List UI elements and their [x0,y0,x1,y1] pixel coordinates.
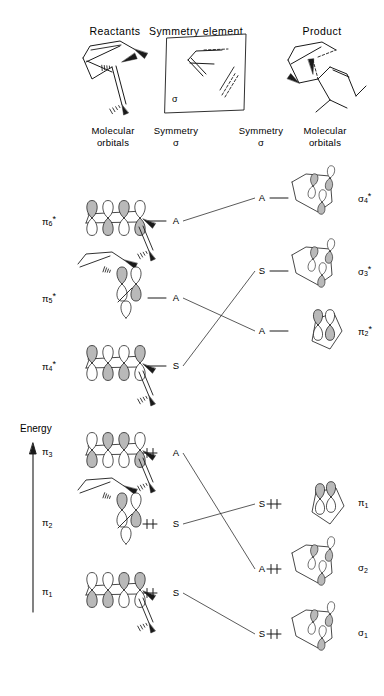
reactant-orbital-label-pi2: π2 [42,518,52,529]
product-symmetry-pi2s: A [259,326,265,336]
reactant-symmetry-pi5s: A [173,293,179,303]
reactant-symmetry-pi2: S [173,519,179,529]
product-orbital-label-pi2s: π2* [358,325,372,337]
reactant-orbital-label-pi5s: π5* [42,292,56,304]
product-symmetry-pi1p: S [259,499,265,509]
product-orbital-label-sig2: σ2 [358,563,368,574]
reactant-symmetry-pi1: S [173,588,179,598]
reactant-orbital-label-pi4s: π4* [42,360,56,372]
reactant-orbital-label-pi3: π3 [42,447,52,458]
product-symmetry-sig3s: S [259,266,265,276]
mirror-plane-sigma-label: σ [172,95,178,104]
product-orbital-label-sig3s: σ3* [358,265,371,277]
product-symmetry-sig2: A [259,564,265,574]
correlation-diagram: Reactants Symmetry element Product Molec… [0,0,384,696]
reactant-orbital-label-pi1: π1 [42,587,52,598]
product-orbital-label-sig1: σ1 [358,628,368,639]
product-orbital-label-pi1p: π1 [358,498,368,509]
reactant-symmetry-pi3: A [173,448,179,458]
product-symmetry-sig1: S [259,629,265,639]
reactant-orbital-label-pi6s: π6* [42,215,56,227]
product-symmetry-sig4s: A [259,193,265,203]
product-orbital-label-sig4s: σ4* [358,192,371,204]
diagram-canvas [0,0,384,696]
reactant-symmetry-pi6s: A [173,216,179,226]
reactant-symmetry-pi4s: S [173,361,179,371]
